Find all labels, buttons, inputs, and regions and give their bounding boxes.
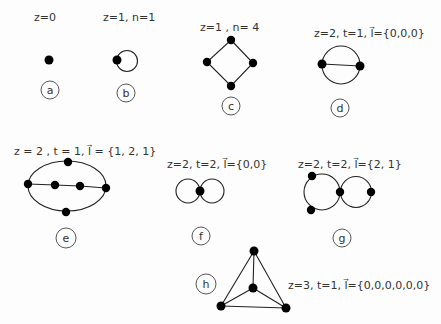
graph-d: z=2, t=1, l⃗={0,0,0} d	[314, 26, 425, 117]
vertex	[76, 182, 84, 190]
graph-e: z = 2 , t = 1, l⃗ = {1, 2, 1} e	[14, 144, 156, 248]
vertex	[307, 206, 315, 214]
square-cycle-edges	[207, 40, 253, 86]
vertex	[318, 60, 327, 69]
graph-a-label: z=0	[34, 11, 56, 24]
vertex	[51, 181, 59, 189]
vertex	[227, 82, 235, 90]
vertex	[336, 188, 344, 196]
vertex	[356, 62, 365, 71]
graph-h: h z=3, t=1, l⃗={0,0,0,0,0,0}	[196, 247, 430, 313]
vertex	[203, 58, 211, 66]
middle-path-edges	[28, 184, 106, 188]
graph-d-label: z=2, t=1, l⃗={0,0,0}	[314, 26, 425, 40]
vertex	[24, 180, 32, 188]
graph-a: z=0 a	[34, 11, 59, 99]
graph-b-tag: b	[123, 87, 130, 100]
graph-g-tag: g	[339, 232, 346, 245]
vertex	[102, 184, 110, 192]
graph-c-label: z=1 , n= 4	[200, 21, 259, 34]
vertex	[64, 158, 72, 166]
graphs-figure: z=0 a z=1, n=1 b z=1 , n= 4 c z=2, t=1, …	[0, 0, 441, 324]
vertex	[249, 59, 257, 67]
graph-f-label: z=2, t=2, l⃗={0,0}	[167, 157, 267, 171]
graph-b-label: z=1, n=1	[103, 11, 155, 24]
vertex	[367, 188, 375, 196]
vertex	[45, 56, 54, 65]
graph-e-tag: e	[63, 232, 70, 245]
vertex	[217, 302, 226, 311]
graph-c: z=1 , n= 4 c	[200, 21, 259, 115]
tetrahedron-edges	[221, 251, 286, 308]
vertex	[308, 172, 316, 180]
vertex	[62, 208, 70, 216]
left-cycle-edge	[304, 174, 340, 210]
vertex	[113, 56, 122, 65]
graph-c-tag: c	[228, 100, 234, 113]
graph-b: z=1, n=1 b	[103, 11, 155, 102]
vertex	[227, 36, 235, 44]
graph-f: z=2, t=2, l⃗={0,0} f	[167, 157, 267, 245]
vertex	[249, 284, 258, 293]
graph-h-tag: h	[203, 278, 210, 291]
graph-g: z=2, t=2, l⃗={2, 1} g	[298, 157, 402, 247]
chord-edge	[322, 64, 360, 66]
vertex	[196, 187, 205, 196]
graph-a-tag: a	[47, 84, 54, 97]
graph-f-tag: f	[199, 230, 204, 243]
graph-g-label: z=2, t=2, l⃗={2, 1}	[298, 157, 402, 171]
vertex	[250, 247, 259, 256]
graph-d-tag: d	[337, 102, 344, 115]
graph-e-label: z = 2 , t = 1, l⃗ = {1, 2, 1}	[14, 144, 156, 158]
vertex	[282, 304, 291, 313]
diagram-canvas: z=0 a z=1, n=1 b z=1 , n= 4 c z=2, t=1, …	[0, 0, 441, 324]
graph-h-label: z=3, t=1, l⃗={0,0,0,0,0,0}	[288, 278, 430, 292]
